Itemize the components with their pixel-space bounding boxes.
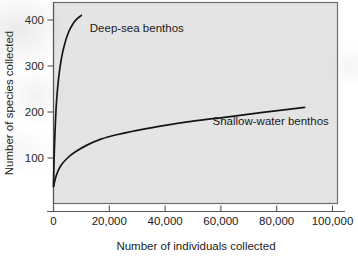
y-tick-label-400: 400 [25,14,44,26]
x-tick-label-0: 0 [50,215,56,227]
y-tick-label-300: 300 [25,60,44,72]
y-axis-title: Number of species collected [3,31,15,175]
x-tick-label-40000: 40,000 [148,215,183,227]
species-accumulation-chart: 400 300 200 100 Number of species collec… [0,0,358,260]
x-axis-title: Number of individuals collected [116,240,275,252]
x-tick-label-100000: 100,000 [312,215,354,227]
curve-label-deep-sea-benthos: Deep-sea benthos [90,22,184,34]
figure-container: 400 300 200 100 Number of species collec… [0,0,358,260]
y-tick-label-200: 200 [25,106,44,118]
curve-label-shallow-water-benthos: Shallow-water benthos [213,115,330,127]
x-tick-label-80000: 80,000 [259,215,294,227]
x-tick-label-60000: 60,000 [203,215,238,227]
x-tick-label-20000: 20,000 [92,215,127,227]
y-tick-label-100: 100 [25,152,44,164]
